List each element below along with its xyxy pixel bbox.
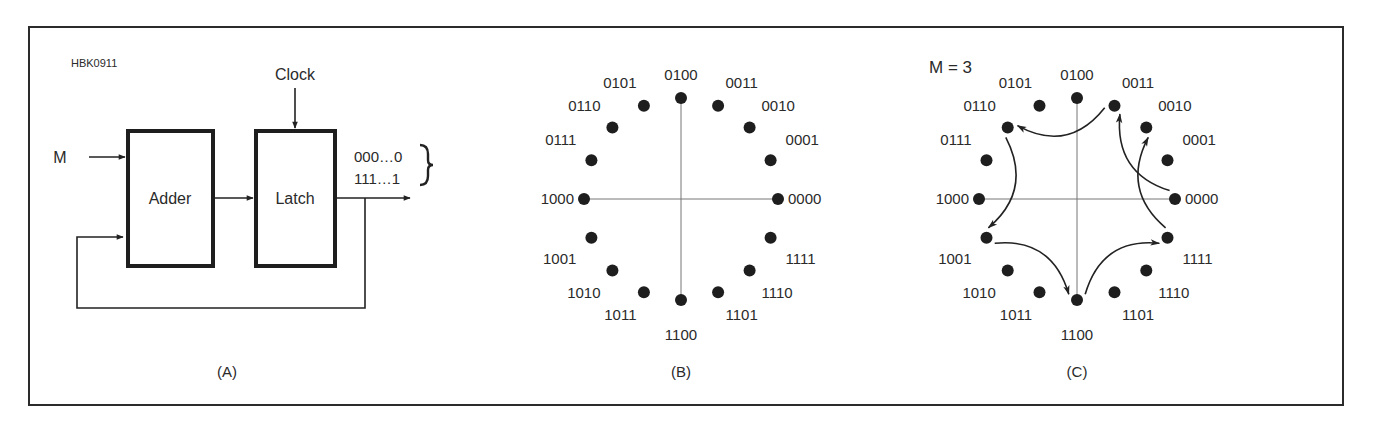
phase-point-0010	[744, 122, 756, 134]
phase-label-0100: 0100	[664, 66, 697, 83]
phase-point-1110	[1140, 264, 1152, 276]
phase-label-1011: 1011	[604, 306, 636, 323]
phase-label-0111: 0111	[545, 131, 576, 148]
phase-point-1101	[712, 286, 724, 298]
phase-point-0111	[585, 154, 597, 166]
phase-label-0010: 0010	[762, 97, 795, 114]
phase-label-0011: 0011	[1122, 74, 1154, 91]
panel-a-block-diagram: Adder Latch M Clock 000…0 111…1 (A)	[53, 66, 433, 380]
phase-point-0111	[981, 154, 993, 166]
output-brace	[420, 145, 433, 185]
phase-point-1101	[1109, 286, 1121, 298]
phase-label-0100: 0100	[1060, 66, 1093, 83]
phase-point-1011	[638, 286, 650, 298]
phase-label-1111: 1111	[1183, 250, 1213, 267]
phase-point-0101	[1034, 100, 1046, 112]
transition-arrow-0011-to-0110	[1018, 108, 1105, 137]
phase-label-1111: 1111	[786, 250, 816, 267]
phase-accumulator-figure: HBK0911 Adder Latch M Clock 000…0 111…1 …	[0, 0, 1374, 422]
phase-point-1000	[973, 193, 985, 205]
phase-label-0101: 0101	[603, 74, 636, 91]
phase-point-1111	[765, 232, 777, 244]
phase-point-0001	[1162, 154, 1174, 166]
phase-label-1000: 1000	[541, 190, 574, 207]
phase-label-0001: 0001	[1183, 131, 1216, 148]
phase-point-1111	[1162, 232, 1174, 244]
phase-label-1001: 1001	[543, 250, 576, 267]
phase-label-1011: 1011	[1000, 306, 1032, 323]
input-m-label: M	[53, 149, 66, 166]
phase-label-1110: 1110	[762, 284, 793, 301]
phase-point-0011	[1109, 100, 1121, 112]
phase-point-0110	[606, 122, 618, 134]
phase-label-1000: 1000	[936, 190, 969, 207]
phase-label-0001: 0001	[786, 131, 819, 148]
phase-label-1010: 1010	[962, 284, 995, 301]
phase-point-0101	[638, 100, 650, 112]
phase-point-1110	[744, 264, 756, 276]
output-label-ones: 111…1	[354, 170, 400, 187]
phase-label-1101: 1101	[726, 306, 758, 323]
phase-label-1110: 1110	[1158, 284, 1189, 301]
phase-label-1101: 1101	[1122, 306, 1154, 323]
output-label-zeros: 000…0	[354, 148, 402, 165]
phase-label-0000: 0000	[788, 190, 821, 207]
phase-label-1010: 1010	[567, 284, 600, 301]
phase-point-1011	[1034, 286, 1046, 298]
phase-label-0110: 0110	[568, 97, 600, 114]
adder-label: Adder	[149, 190, 192, 207]
phase-label-1100: 1100	[1061, 326, 1093, 343]
phase-point-1001	[981, 232, 993, 244]
transition-arrow-0110-to-1001	[988, 137, 1016, 227]
phase-point-0010	[1140, 122, 1152, 134]
phase-point-0011	[712, 100, 724, 112]
phase-point-0001	[765, 154, 777, 166]
phase-point-0100	[1071, 92, 1083, 104]
panel-b-phase-wheel: 0000000100100011010001010110011110001001…	[541, 66, 822, 380]
panel-a-caption: (A)	[217, 363, 237, 380]
phase-point-1100	[1071, 294, 1083, 306]
step-size-label: M = 3	[929, 58, 972, 77]
phase-point-1001	[585, 232, 597, 244]
phase-label-0011: 0011	[726, 74, 758, 91]
phase-point-1010	[606, 264, 618, 276]
figure-id-label: HBK0911	[71, 57, 117, 69]
phase-point-1100	[675, 294, 687, 306]
phase-point-0110	[1002, 122, 1014, 134]
clock-label: Clock	[275, 66, 316, 83]
phase-label-0010: 0010	[1158, 97, 1191, 114]
latch-label: Latch	[275, 190, 314, 207]
phase-label-0000: 0000	[1185, 190, 1218, 207]
phase-point-1010	[1002, 264, 1014, 276]
phase-point-1000	[578, 193, 590, 205]
phase-label-1001: 1001	[938, 250, 971, 267]
panel-c-caption: (C)	[1067, 363, 1088, 380]
phase-point-0000	[772, 193, 784, 205]
phase-label-1100: 1100	[665, 326, 697, 343]
phase-label-0110: 0110	[964, 97, 996, 114]
phase-point-0100	[675, 92, 687, 104]
phase-point-0000	[1169, 193, 1181, 205]
panel-b-caption: (B)	[671, 363, 691, 380]
phase-label-0101: 0101	[999, 74, 1032, 91]
phase-label-0111: 0111	[940, 131, 971, 148]
panel-c-phase-wheel-step: 0000000100100011010001010110011110001001…	[929, 58, 1218, 380]
